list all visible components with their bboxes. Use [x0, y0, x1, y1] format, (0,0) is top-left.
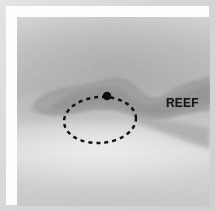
annotation-layer — [17, 17, 210, 206]
frame-white-matte: REEF — [6, 6, 209, 205]
reef-label: REEF — [166, 96, 199, 109]
figure-frame: REEF — [0, 0, 215, 211]
dashed-ellipse-annotation — [62, 95, 137, 146]
image-plate: REEF — [17, 17, 210, 206]
point-marker — [103, 92, 112, 101]
